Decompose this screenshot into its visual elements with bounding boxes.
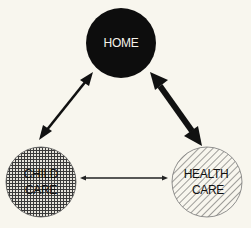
- node-home-label: HOME: [104, 36, 139, 50]
- node-child-care-label-line2: CARE: [25, 183, 57, 197]
- node-home: HOME: [86, 8, 156, 78]
- node-health-care-label-line2: CARE: [192, 183, 224, 197]
- arrowhead-icon: [80, 72, 93, 86]
- node-child-care-label-line1: CHILD: [24, 167, 59, 181]
- edge-home-healthcare: [150, 72, 202, 146]
- arrowhead-icon: [162, 176, 168, 181]
- edge-childcare-healthcare: [80, 176, 168, 181]
- node-health-care-label-line1: HEALTH: [184, 167, 229, 181]
- arrowhead-icon: [80, 176, 86, 181]
- diagram-svg: HOME CHILD CARE HEALTH CARE: [0, 0, 251, 228]
- node-child-care: CHILD CARE: [6, 147, 76, 217]
- node-health-care: HEALTH CARE: [172, 147, 242, 217]
- relationship-diagram: HOME CHILD CARE HEALTH CARE: [0, 0, 251, 228]
- edge-home-childcare: [39, 72, 93, 140]
